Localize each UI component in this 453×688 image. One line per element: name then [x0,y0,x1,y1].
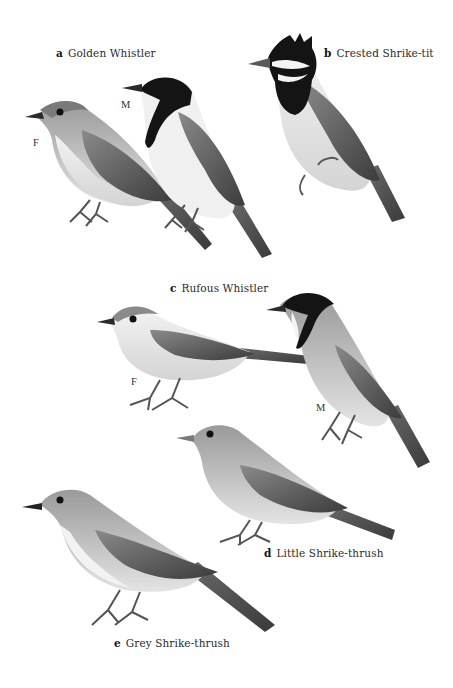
bird-illustrations [0,0,453,688]
species-name: Little Shrike-thrush [276,547,383,559]
sex-label-golden-whistler-male: M [121,99,130,110]
species-caption-e: eGrey Shrike-thrush [114,637,230,649]
species-caption-c: cRufous Whistler [170,282,268,294]
species-name: Rufous Whistler [182,282,269,294]
sex-label-golden-whistler-female: F [33,137,39,148]
species-caption-a: aGolden Whistler [56,47,156,59]
species-letter: e [114,637,121,649]
species-letter: d [264,547,271,559]
crested-shrike-tit-illustration [248,33,405,222]
species-letter: a [56,47,63,59]
species-caption-b: bCrested Shrike-tit [324,47,434,59]
species-name: Grey Shrike-thrush [126,637,230,649]
sex-label-rufous-whistler-female: F [131,376,137,387]
sex-label-rufous-whistler-male: M [316,402,325,413]
species-name: Golden Whistler [68,47,156,59]
species-letter: b [324,47,331,59]
species-name: Crested Shrike-tit [336,47,433,59]
rufous-whistler-male-illustration [266,293,430,468]
little-shrike-thrush-illustration [176,425,395,545]
rufous-whistler-female-illustration [97,306,310,410]
species-caption-d: dLittle Shrike-thrush [264,547,384,559]
field-guide-plate: aGolden Whistler bCrested Shrike-tit cRu… [0,0,453,688]
species-letter: c [170,282,177,294]
